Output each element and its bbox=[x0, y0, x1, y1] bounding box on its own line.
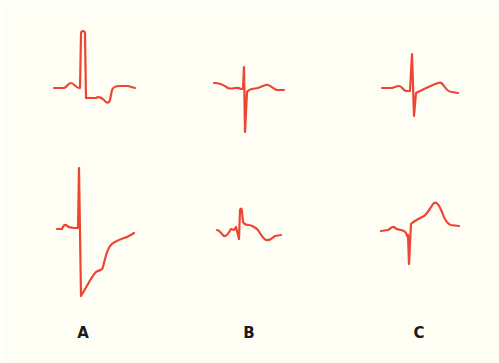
ecg-trace-c-top bbox=[382, 54, 458, 116]
ecg-trace-b-top bbox=[214, 67, 284, 132]
column-label-c: C bbox=[399, 324, 439, 342]
ecg-trace-a-top bbox=[54, 31, 135, 103]
ecg-trace-a-bottom bbox=[57, 168, 134, 296]
ecg-trace-b-bottom bbox=[217, 209, 281, 241]
ecg-waveforms bbox=[2, 2, 499, 363]
column-label-b: B bbox=[229, 324, 269, 342]
ecg-figure: A B C bbox=[2, 2, 499, 363]
column-label-a: A bbox=[63, 324, 103, 342]
ecg-trace-c-bottom bbox=[381, 203, 459, 264]
